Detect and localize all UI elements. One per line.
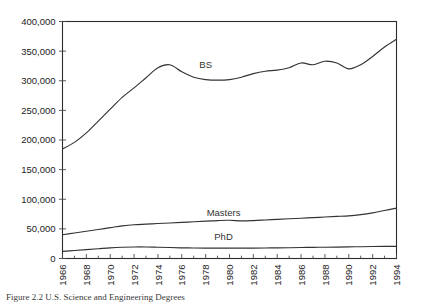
x-tick-label: 1984 xyxy=(272,265,283,286)
y-tick-label: 300,000 xyxy=(21,75,55,86)
x-tick-label: 1976 xyxy=(176,265,187,286)
x-tick-label: 1972 xyxy=(129,265,140,286)
figure-caption: Figure 2.2 U.S. Science and Engineering … xyxy=(6,292,426,303)
y-tick-label: 250,000 xyxy=(21,105,55,116)
line-chart: 050,000100,000150,000200,000250,000300,0… xyxy=(0,0,429,304)
plot-frame xyxy=(63,22,397,259)
series-label-masters: Masters xyxy=(207,207,241,218)
figure-container: 050,000100,000150,000200,000250,000300,0… xyxy=(0,0,429,304)
y-tick-label: 50,000 xyxy=(26,223,55,234)
x-tick-label: 1966 xyxy=(57,265,68,286)
x-tick-label: 1986 xyxy=(296,265,307,286)
x-tick-label: 1980 xyxy=(224,265,235,286)
y-tick-label: 150,000 xyxy=(21,164,55,175)
x-axis-tick-labels: 1966196819701972197419761978198019821984… xyxy=(57,265,402,286)
y-axis-tick-labels: 050,000100,000150,000200,000250,000300,0… xyxy=(21,16,55,264)
x-tick-label: 1968 xyxy=(81,265,92,286)
x-tick-label: 1970 xyxy=(105,265,116,286)
y-tick-label: 350,000 xyxy=(21,46,55,57)
y-tick-label: 200,000 xyxy=(21,134,55,145)
x-tick-label: 1992 xyxy=(367,265,378,286)
series-label-bs: BS xyxy=(199,59,212,70)
x-tick-label: 1982 xyxy=(248,265,259,286)
y-tick-label: 0 xyxy=(50,253,55,264)
y-tick-label: 400,000 xyxy=(21,16,55,27)
x-tick-label: 1978 xyxy=(200,265,211,286)
data-series-group xyxy=(63,39,397,251)
series-inline-labels: BSMastersPhD xyxy=(199,59,240,242)
x-axis-ticks xyxy=(63,254,397,259)
series-line-bs xyxy=(63,39,397,149)
series-line-phd xyxy=(63,246,397,251)
series-label-phd: PhD xyxy=(214,231,233,242)
x-tick-label: 1988 xyxy=(320,265,331,286)
y-tick-label: 100,000 xyxy=(21,194,55,205)
x-tick-label: 1990 xyxy=(343,265,354,286)
x-tick-label: 1974 xyxy=(153,265,164,286)
x-tick-label: 1994 xyxy=(391,265,402,286)
